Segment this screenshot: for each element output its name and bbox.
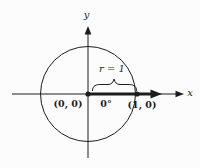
x-axis-label: x <box>187 87 193 98</box>
y-axis-label: y <box>83 9 90 20</box>
figure-canvas: x y r = 1 (0, 0) 0° (1, 0) <box>0 0 200 168</box>
unit-point-dot <box>134 91 139 96</box>
radius-brace-icon <box>93 79 137 91</box>
unit-point-label: (1, 0) <box>128 99 157 111</box>
unit-circle-figure: x y r = 1 (0, 0) 0° (1, 0) <box>0 0 200 168</box>
x-axis-arrowhead-icon <box>176 91 185 98</box>
terminal-ray-arrowhead-icon <box>151 90 163 99</box>
origin-dot <box>85 91 90 96</box>
angle-label: 0° <box>100 98 111 109</box>
origin-label: (0, 0) <box>54 98 83 110</box>
radius-label: r = 1 <box>99 63 125 74</box>
y-axis-arrowhead-icon <box>85 26 92 35</box>
